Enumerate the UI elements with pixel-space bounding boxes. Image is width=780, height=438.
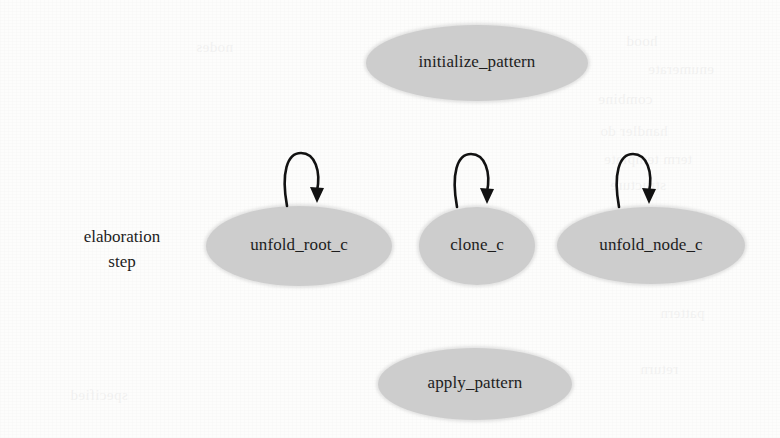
node-unfold-root-c[interactable]: unfold_root_c — [206, 206, 392, 286]
arrowhead-icon — [480, 188, 494, 204]
node-label: unfold_node_c — [599, 235, 702, 255]
node-clone-c[interactable]: clone_c — [419, 207, 535, 285]
node-label: clone_c — [450, 235, 504, 255]
bleed-line: handler do — [600, 118, 668, 144]
arrowhead-icon — [642, 188, 656, 204]
arrowhead-icon — [310, 187, 324, 203]
self-loop-arc — [455, 154, 489, 207]
bleed-line: pattern — [660, 300, 704, 326]
axis-label-line2: step — [63, 249, 181, 274]
self-loop-arrow-clone-c[interactable] — [451, 150, 499, 208]
node-label: unfold_root_c — [250, 235, 348, 255]
self-loop-arrow-unfold-node-c[interactable] — [613, 150, 661, 208]
self-loop-arc — [617, 154, 651, 207]
node-label: apply_pattern — [428, 373, 523, 393]
figure-canvas: hood nodes enumerate combine handler do … — [0, 0, 780, 438]
node-unfold-node-c[interactable]: unfold_node_c — [557, 207, 745, 284]
axis-label-elaboration-step: elaboration step — [63, 224, 181, 274]
bleed-line: combine — [598, 86, 652, 112]
node-label: initialize_pattern — [419, 52, 536, 72]
bleed-line: return — [640, 356, 678, 382]
bleed-line: nodes — [196, 34, 233, 60]
node-apply-pattern[interactable]: apply_pattern — [378, 348, 572, 420]
bleed-line: enumerate — [648, 56, 714, 82]
axis-label-line1: elaboration — [63, 224, 181, 249]
bleed-line: specified — [70, 382, 128, 408]
self-loop-arrow-unfold-root-c[interactable] — [281, 149, 329, 207]
node-initialize-pattern[interactable]: initialize_pattern — [366, 25, 588, 101]
bleed-line: hood — [626, 28, 658, 54]
self-loop-arc — [285, 153, 319, 206]
